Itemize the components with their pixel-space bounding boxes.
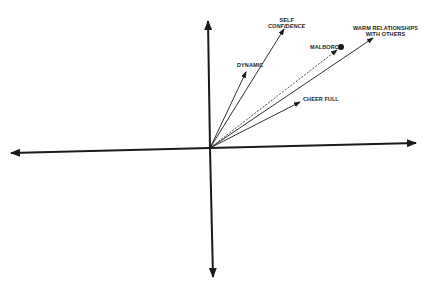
- axis-left: [11, 148, 210, 153]
- vector-self-confidence: [210, 29, 284, 148]
- label-dynamic: DYNAMIC: [237, 62, 263, 68]
- label-warm-relationships: WARM RELATIONSHIPS WITH OTHERS: [353, 25, 418, 37]
- axis-up: [208, 21, 210, 148]
- axis-down: [210, 148, 213, 277]
- label-warm-line2: WITH OTHERS: [353, 31, 418, 37]
- label-cheer-full: CHEER FULL: [303, 96, 339, 102]
- label-confidence-line2: CONFIDENCE: [268, 23, 305, 29]
- attribute-vectors: [210, 29, 373, 148]
- vector-warm-relationships: [210, 38, 373, 148]
- label-self-confidence: SELF CONFIDENCE: [268, 17, 305, 29]
- label-malboro: MALBORO: [310, 44, 339, 50]
- axis-right: [210, 143, 416, 148]
- vector-diagram: [0, 0, 427, 293]
- axes: [11, 21, 416, 277]
- vector-dynamic: [210, 72, 246, 148]
- vector-cheer-full: [210, 102, 300, 148]
